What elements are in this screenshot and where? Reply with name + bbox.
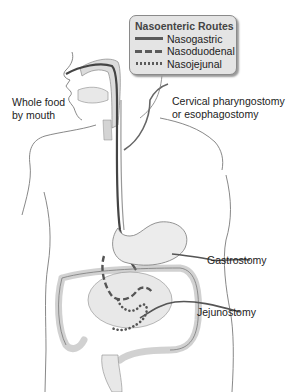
legend-item-nasoduodenal: Nasoduodenal — [135, 45, 236, 58]
label-whole-food: Whole food by mouth — [12, 96, 65, 121]
cervical-ostomy-tube — [124, 84, 168, 150]
label-line: by mouth — [12, 109, 65, 122]
legend-title: Nasoenteric Routes — [135, 20, 236, 33]
label-line: Whole food — [12, 96, 65, 109]
dotted-line-swatch — [135, 62, 163, 65]
solid-line-swatch — [135, 37, 163, 40]
legend-label: Nasoduodenal — [167, 45, 235, 58]
label-line: or esophagostomy — [172, 108, 285, 121]
label-gastrostomy: Gastrostomy — [207, 254, 267, 267]
enteral-feeding-routes-diagram: Nasoenteric Routes Nasogastric Nasoduode… — [0, 0, 294, 392]
label-cervical-ostomy: Cervical pharyngostomy or esophagostomy — [172, 95, 285, 120]
label-jejunostomy: Jejunostomy — [197, 306, 256, 319]
legend-item-nasojejunal: Nasojejunal — [135, 58, 236, 71]
legend-label: Nasogastric — [167, 33, 222, 46]
legend-connector-line — [140, 75, 162, 118]
label-line: Cervical pharyngostomy — [172, 95, 285, 108]
legend-item-nasogastric: Nasogastric — [135, 33, 236, 46]
dashed-line-swatch — [135, 50, 163, 53]
legend-label: Nasojejunal — [167, 58, 222, 71]
small-intestine — [88, 272, 172, 392]
legend-box: Nasoenteric Routes Nasogastric Nasoduode… — [129, 15, 237, 75]
